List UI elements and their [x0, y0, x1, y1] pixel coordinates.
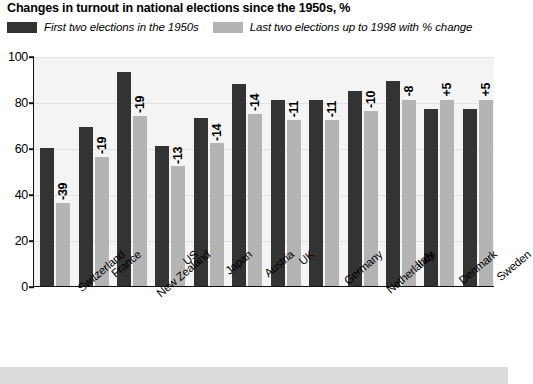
- footer-band: [0, 367, 508, 384]
- x-axis-label: UK: [296, 248, 316, 267]
- bar-change-label: -13: [171, 147, 185, 164]
- legend-swatch-light: [213, 22, 243, 33]
- bar-change-label: -19: [133, 96, 147, 113]
- chart-legend: First two elections in the 1950s Last tw…: [7, 21, 472, 33]
- legend-item-last-period: Last two elections up to 1998 with % cha…: [213, 21, 473, 33]
- legend-label-last-period: Last two elections up to 1998 with % cha…: [250, 21, 473, 33]
- x-axis-label: Austria: [262, 248, 296, 279]
- bar-change-label: -11: [325, 101, 339, 117]
- bar-change-label: -19: [95, 137, 109, 154]
- legend-label-first-period: First two elections in the 1950s: [44, 21, 199, 33]
- bar-change-label: -8: [402, 86, 416, 96]
- chart-x-axis-labels: SwitzerlandFranceNew ZealandUSJapanAustr…: [33, 244, 494, 314]
- bar-change-label: -11: [287, 101, 301, 117]
- bar-change-label: -39: [56, 183, 70, 200]
- bar-change-label: -14: [248, 94, 262, 111]
- bar-change-label: +5: [440, 83, 454, 96]
- x-axis-label: Japan: [223, 248, 254, 277]
- bar-change-label: +5: [479, 83, 493, 96]
- x-axis-label: Denmark: [457, 248, 499, 286]
- page-title: Changes in turnout in national elections…: [7, 1, 350, 15]
- legend-swatch-dark: [7, 22, 37, 33]
- x-axis-label: Germany: [342, 248, 385, 287]
- bar-change-label: -14: [210, 124, 224, 141]
- bar-change-label: -10: [364, 91, 378, 108]
- legend-item-first-period: First two elections in the 1950s: [7, 21, 199, 33]
